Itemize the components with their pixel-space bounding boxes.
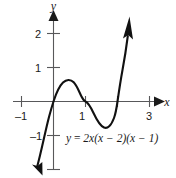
y-tick-labels: 2 1 –1 xyxy=(30,28,42,142)
svg-text:y = 2x(x − 2)(x − 1): y = 2x(x − 2)(x − 1) xyxy=(65,132,158,145)
graph-figure: x y –1 1 3 2 1 xyxy=(0,0,176,178)
y-axis-label: y xyxy=(50,0,57,13)
equation-label: y = 2x(x − 2)(x − 1) xyxy=(65,132,158,145)
y-tick-label-2: 2 xyxy=(35,28,41,40)
x-tick-label-minus1: –1 xyxy=(15,110,27,122)
equation-rhs: 2x(x − 2)(x − 1) xyxy=(83,132,158,145)
cubic-function-plot: x y –1 1 3 2 1 xyxy=(0,0,176,178)
cubic-curve-group xyxy=(32,17,133,176)
x-tick-label-1: 1 xyxy=(79,110,85,122)
x-tick-label-3: 3 xyxy=(146,110,152,122)
y-tick-label-1: 1 xyxy=(35,62,41,74)
x-tick-labels: –1 1 3 xyxy=(15,110,152,122)
x-axis-label: x xyxy=(163,95,170,109)
x-axis: x xyxy=(13,95,170,109)
y-tick-label-minus1: –1 xyxy=(30,130,42,142)
y-axis: y xyxy=(49,0,59,170)
